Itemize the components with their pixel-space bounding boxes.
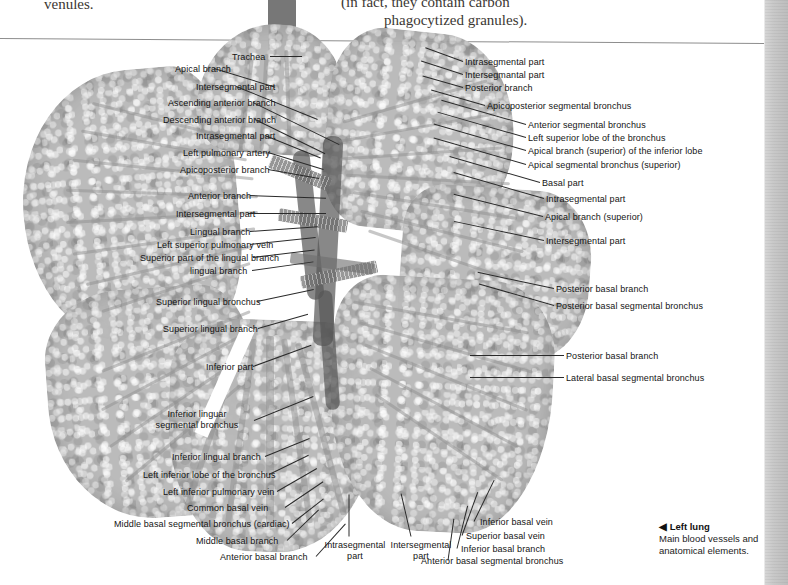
- figure-caption: ◀ Left lung Main blood vessels and anato…: [659, 521, 759, 557]
- label-inferior-basal-branch: Inferior basal branch: [461, 544, 545, 555]
- label-left-inferior-pulmonary-vein: Left inferior pulmonary vein: [163, 487, 274, 498]
- figure-title: Left lung: [670, 521, 710, 532]
- label-intrasegmental-part: Intrasegmental part: [546, 194, 625, 205]
- body-text-parenthetical-line1: (in fact, they contain carbon: [341, 0, 510, 11]
- label-intersegmantal-part: Intersegmantal part: [465, 70, 544, 81]
- label-posterior-basal-branch: Posterior basal branch: [566, 351, 658, 362]
- figure-caption-line1: Main blood vessels and: [659, 533, 759, 545]
- label-left-superior-lobe-of-the-bronchus: Left superior lobe of the bronchus: [528, 133, 666, 144]
- label-superior-part-of-the-lingual-branch: Superior part of the lingual branch: [140, 253, 279, 264]
- label-anterior-segmental-bronchus: Anterior segmental bronchus: [528, 120, 646, 131]
- figure-caption-line2: anatomical elements.: [659, 545, 759, 557]
- label-ascending-anterior-branch: Ascending anterior branch: [168, 98, 276, 109]
- label-left-superior-pulmonary-vein: Left superior pulmonary vein: [157, 240, 273, 251]
- label-line: segmental bronchus: [155, 420, 239, 431]
- label-lateral-basal-segmental-bronchus: Lateral basal segmental bronchus: [566, 373, 704, 384]
- label-left-inferior-lobe-of-the-bronchus: Left inferior lobe of the bronchus: [143, 470, 275, 481]
- caption-left-arrow-icon: ◀: [659, 521, 667, 532]
- label-anterior-branch: Anterior branch: [188, 191, 251, 202]
- leader-line: [349, 495, 350, 537]
- label-apical-branch-superior: Apical branch (superior): [545, 212, 643, 223]
- label-inferior-part: Inferior part: [206, 362, 253, 373]
- figure-caption-title: ◀ Left lung: [659, 521, 759, 533]
- label-intrasegmental-part: Intrasegmental part: [196, 131, 275, 142]
- label-line: Inferior linguar: [155, 409, 239, 420]
- label-lingual-branch: lingual branch: [190, 266, 247, 277]
- label-inferior-linguar-segmental-bronchus: Inferior linguarsegmental bronchus: [155, 409, 239, 431]
- label-apical-branch: Apical branch: [175, 64, 231, 75]
- page-edge-band: [765, 0, 788, 585]
- body-text-parenthetical-line2: phagocytized granules).: [384, 12, 527, 29]
- label-middle-basal-branch: Middle basal branch: [196, 536, 278, 547]
- label-lingual-branch: Lingual branch: [190, 227, 250, 238]
- label-apical-segmental-bronchus-superior: Apical segmental bronchus (superior): [528, 160, 681, 171]
- label-middle-basal-segmental-bronchus-cardiac: Middle basal segmental bronchus (cardiac…: [114, 519, 290, 530]
- lung-illustration: [0, 40, 766, 560]
- body-text-venules: venules.: [44, 0, 94, 13]
- leader-line: [470, 377, 564, 378]
- label-inferior-lingual-branch: Inferior lingual branch: [172, 452, 261, 463]
- label-inferior-basal-vein: Inferior basal vein: [480, 517, 553, 528]
- label-posterior-basal-branch: Posterior basal branch: [556, 284, 648, 295]
- label-superior-lingual-branch: Superior lingual branch: [163, 324, 258, 335]
- label-left-pulmonary-artery: Left pulmonary artery: [183, 148, 270, 159]
- label-intersegmental-part: Intersegmental part: [196, 82, 275, 93]
- label-apical-branch-superior-of-the-inferior-lobe: Apical branch (superior) of the inferior…: [528, 146, 703, 157]
- label-posterior-branch: Posterior branch: [465, 83, 533, 94]
- label-anterior-basal-branch: Anterior basal branch: [220, 552, 308, 563]
- label-trachea: Trachea: [232, 52, 265, 63]
- leader-line: [270, 56, 302, 57]
- label-superior-lingual-bronchus: Superior lingual bronchus: [156, 297, 261, 308]
- page-canvas: venules. (in fact, they contain carbon p…: [0, 0, 788, 585]
- label-apicoposterior-segmental-bronchus: Apicoposterior segmental bronchus: [487, 101, 631, 112]
- label-superior-basal-vein: Superior basal vein: [466, 531, 545, 542]
- label-apicoposterior-branch: Apicoposterior branch: [180, 165, 270, 176]
- label-common-basal-vein: Common basal vein: [187, 503, 268, 514]
- leader-line: [470, 355, 564, 356]
- label-anterior-basal-segmental-bronchus: Anterior basal segmental bronchus: [421, 556, 563, 567]
- label-intersegmental-part: Intersegmental part: [546, 236, 625, 247]
- label-intersegmental-part: Intersegmental part: [176, 209, 255, 220]
- label-intrasegmental-part: Intrasegmental part: [465, 57, 544, 68]
- leader-line: [248, 213, 326, 214]
- label-basal-part: Basal part: [542, 178, 584, 189]
- label-posterior-basal-segmental-bronchus: Posterior basal segmental bronchus: [556, 301, 703, 312]
